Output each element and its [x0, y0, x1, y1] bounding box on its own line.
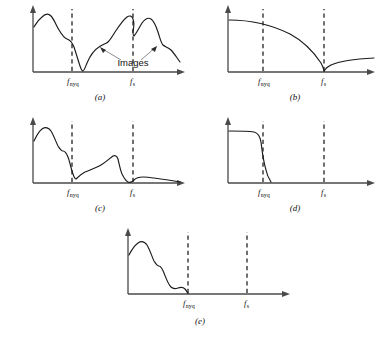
panel-b-tick-fs: fs	[321, 76, 327, 87]
panel-c-tick-fnyq: fnyq	[67, 187, 79, 198]
panel-d-caption: (d)	[290, 203, 301, 213]
panel-b: fnyq fs (b)	[225, 5, 375, 102]
spectrum-figure-panels: Images fnyq fs (a) fnyq fs (b) fnyq fs (…	[0, 0, 380, 342]
panel-d-y-axis-arrowhead	[225, 117, 231, 125]
panel-e-spectrum-curve	[129, 242, 188, 294]
panel-d-tick-fnyq: fnyq	[258, 187, 270, 198]
panel-d-tick-fs: fs	[321, 187, 327, 198]
panel-e-y-axis-arrowhead	[125, 228, 131, 236]
panel-e-caption: (e)	[195, 316, 205, 326]
panel-a-caption: (a)	[95, 92, 106, 102]
panel-a-tick-fnyq: fnyq	[67, 76, 79, 87]
panel-d-filter-curve	[229, 131, 271, 182]
panel-a: Images fnyq fs (a)	[30, 5, 185, 102]
panel-e-tick-fnyq: fnyq	[183, 298, 195, 309]
panel-a-spectrum-curve	[34, 14, 180, 71]
panel-b-tick-fnyq: fnyq	[258, 76, 270, 87]
panel-c: fnyq fs (c)	[30, 117, 185, 213]
panel-b-caption: (b)	[290, 92, 301, 102]
panel-a-images-annotation: Images	[117, 57, 148, 68]
panel-e-x-axis-arrowhead	[282, 291, 290, 297]
panel-c-y-axis-arrowhead	[30, 117, 36, 125]
panel-e-tick-fs: fs	[244, 298, 250, 309]
panel-c-x-axis-arrowhead	[177, 180, 185, 186]
panel-b-filter-curve	[229, 20, 374, 72]
panel-b-y-axis-arrowhead	[225, 5, 231, 13]
panel-d: fnyq fs (d)	[225, 117, 375, 213]
panel-a-tick-fs: fs	[130, 76, 136, 87]
panel-b-x-axis-arrowhead	[367, 69, 375, 75]
panel-c-tick-fs: fs	[130, 187, 136, 198]
panel-c-spectrum-curve	[34, 128, 180, 183]
panel-a-y-axis-arrowhead	[30, 5, 36, 13]
panel-d-x-axis-arrowhead	[367, 180, 375, 186]
panel-a-leader-left-arrowhead	[100, 47, 106, 53]
panel-c-caption: (c)	[95, 203, 105, 213]
panel-e: fnyq fs (e)	[125, 228, 290, 326]
panel-a-x-axis-arrowhead	[177, 69, 185, 75]
